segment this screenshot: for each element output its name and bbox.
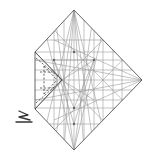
crease-pattern-svg	[0, 0, 153, 168]
crease-lines	[0, 0, 153, 168]
crease-pattern-diagram	[0, 0, 153, 168]
zigzag-pleat-symbol	[16, 111, 32, 122]
folded-flap	[35, 52, 62, 109]
